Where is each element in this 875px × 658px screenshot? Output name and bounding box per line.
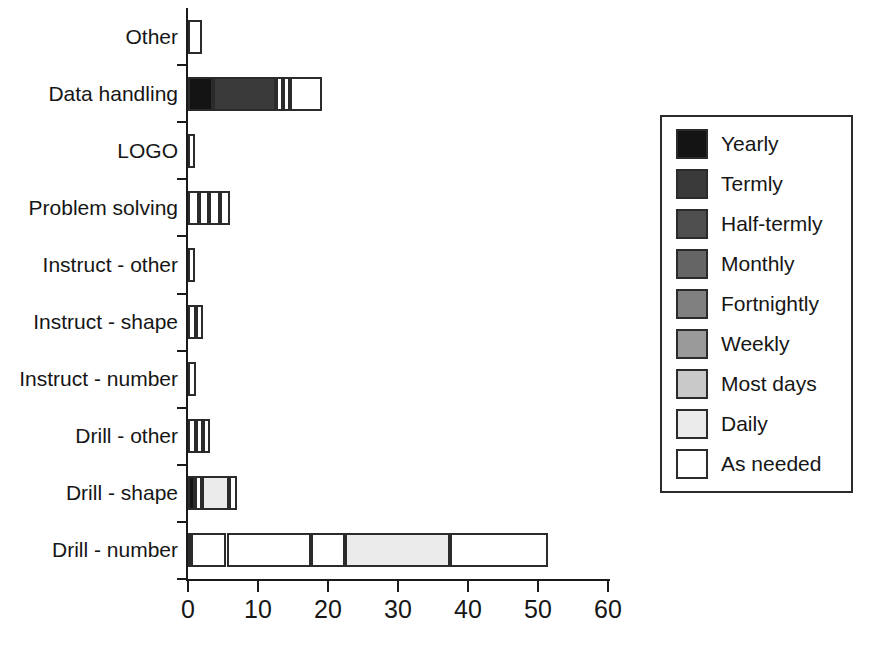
legend-label-as-needed: As needed <box>721 452 821 476</box>
y-tick-2 <box>177 178 187 180</box>
x-tick-label-40: 40 <box>438 594 498 624</box>
legend-label-weekly: Weekly <box>721 332 789 356</box>
y-tick-6 <box>177 407 187 409</box>
bar-segment-as-needed <box>188 134 195 168</box>
bar-segment-as-needed <box>283 77 290 111</box>
x-tick-label-30: 30 <box>368 594 428 624</box>
bar-logo <box>188 134 195 168</box>
legend-label-yearly: Yearly <box>721 132 779 156</box>
x-tick-30 <box>397 581 399 592</box>
bar-segment-weekly <box>188 419 196 453</box>
bar-segment-weekly <box>191 533 227 567</box>
bar-segment-most-days <box>227 533 311 567</box>
y-tick-0 <box>177 64 187 66</box>
legend-item-daily: Daily <box>676 407 768 441</box>
bar-segment-as-needed <box>450 533 549 567</box>
bar-segment-as-needed <box>188 20 202 54</box>
stacked-bar-chart: 0102030405060 OtherData handlingLOGOProb… <box>0 0 875 658</box>
legend: YearlyTermlyHalf-termlyMonthlyFortnightl… <box>660 115 853 493</box>
legend-swatch-most-days <box>676 369 708 399</box>
x-tick-10 <box>257 581 259 592</box>
bar-segment-daily <box>196 419 204 453</box>
bar-drill-other <box>188 419 210 453</box>
legend-label-termly: Termly <box>721 172 783 196</box>
legend-label-half-termly: Half-termly <box>721 212 823 236</box>
legend-swatch-yearly <box>676 129 708 159</box>
bar-segment-as-needed <box>220 191 231 225</box>
y-tick-1 <box>177 121 187 123</box>
bar-instruct-number <box>188 362 196 396</box>
legend-swatch-half-termly <box>676 209 708 239</box>
bar-data-handling <box>188 77 322 111</box>
bar-segment-as-needed <box>188 362 196 396</box>
x-tick-label-60: 60 <box>578 594 638 624</box>
legend-swatch-termly <box>676 169 708 199</box>
bar-problem-solving <box>188 191 230 225</box>
legend-item-weekly: Weekly <box>676 327 789 361</box>
bar-segment-daily <box>276 77 284 111</box>
bar-segment-daily <box>209 191 220 225</box>
bar-segment-as-needed <box>203 419 210 453</box>
y-tick-3 <box>177 235 187 237</box>
legend-item-monthly: Monthly <box>676 247 795 281</box>
bar-other <box>188 20 202 54</box>
y-tick-7 <box>177 464 187 466</box>
x-tick-label-0: 0 <box>158 594 218 624</box>
legend-item-most-days: Most days <box>676 367 817 401</box>
legend-item-termly: Termly <box>676 167 783 201</box>
bar-segment-daily <box>345 533 450 567</box>
category-label-drill-shape: Drill - shape <box>66 481 178 505</box>
category-label-logo: LOGO <box>117 139 178 163</box>
bar-segment-most-days <box>199 191 209 225</box>
x-tick-0 <box>187 581 189 592</box>
category-label-data-handling: Data handling <box>48 82 178 106</box>
x-tick-50 <box>537 581 539 592</box>
bar-segment-as-needed <box>229 476 237 510</box>
category-label-drill-number: Drill - number <box>52 538 178 562</box>
x-tick-label-20: 20 <box>298 594 358 624</box>
bar-segment-yearly <box>188 476 195 510</box>
bar-segment-daily <box>188 305 196 339</box>
x-tick-60 <box>607 581 609 592</box>
y-tick-4 <box>177 293 187 295</box>
legend-label-monthly: Monthly <box>721 252 795 276</box>
bar-segment-as-needed <box>196 305 204 339</box>
category-label-problem-solving: Problem solving <box>29 196 178 220</box>
bar-segment-weekly <box>195 476 202 510</box>
y-tick-8 <box>177 521 187 523</box>
bar-segment-as-needed <box>290 77 322 111</box>
category-label-instruct-number: Instruct - number <box>19 367 178 391</box>
category-label-drill-other: Drill - other <box>75 424 178 448</box>
x-tick-40 <box>467 581 469 592</box>
legend-swatch-weekly <box>676 329 708 359</box>
x-tick-20 <box>327 581 329 592</box>
legend-swatch-daily <box>676 409 708 439</box>
legend-item-as-needed: As needed <box>676 447 821 481</box>
bar-segment-termly <box>213 77 276 111</box>
legend-swatch-as-needed <box>676 449 708 479</box>
legend-label-daily: Daily <box>721 412 768 436</box>
legend-label-most-days: Most days <box>721 372 817 396</box>
y-tick-9 <box>177 578 187 580</box>
legend-swatch-fortnightly <box>676 289 708 319</box>
x-tick-label-50: 50 <box>508 594 568 624</box>
y-tick-5 <box>177 350 187 352</box>
category-label-instruct-other: Instruct - other <box>43 253 178 277</box>
legend-item-yearly: Yearly <box>676 127 779 161</box>
legend-swatch-monthly <box>676 249 708 279</box>
bar-drill-number <box>188 533 549 567</box>
category-label-other: Other <box>125 25 178 49</box>
bar-segment-most-days <box>202 476 229 510</box>
bar-segment-as-needed <box>188 248 195 282</box>
category-label-instruct-shape: Instruct - shape <box>33 310 178 334</box>
bar-instruct-shape <box>188 305 203 339</box>
bar-instruct-other <box>188 248 195 282</box>
x-tick-label-10: 10 <box>228 594 288 624</box>
bar-segment-daily <box>311 533 345 567</box>
bar-segment-yearly <box>188 77 213 111</box>
legend-label-fortnightly: Fortnightly <box>721 292 819 316</box>
legend-item-fortnightly: Fortnightly <box>676 287 819 321</box>
bar-segment-weekly <box>188 191 199 225</box>
bar-drill-shape <box>188 476 237 510</box>
legend-item-half-termly: Half-termly <box>676 207 823 241</box>
